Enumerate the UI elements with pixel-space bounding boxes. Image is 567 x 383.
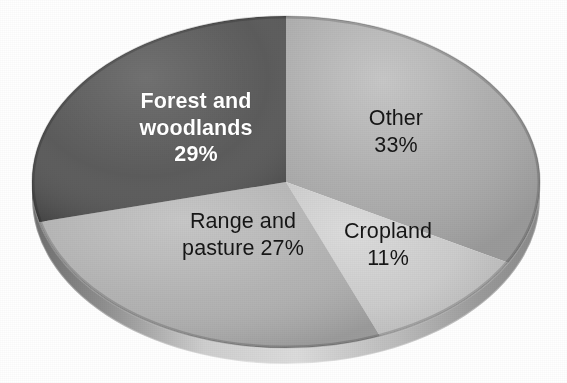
pie-chart-canvas (0, 0, 567, 383)
pie-chart-figure: Forest and woodlands 29% Other 33% Range… (0, 0, 567, 383)
